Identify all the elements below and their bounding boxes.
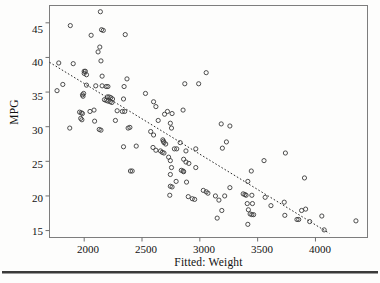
plot-area-frame bbox=[49, 5, 368, 238]
x-tick-label-2500: 2500 bbox=[126, 244, 166, 255]
x-tick-label-3500: 3500 bbox=[242, 244, 282, 255]
x-tick-label-2000: 2000 bbox=[68, 244, 108, 255]
y-tick-label-15: 15 bbox=[19, 226, 43, 237]
y-tick-label-25: 25 bbox=[19, 159, 43, 170]
y-tick-label-40: 40 bbox=[19, 57, 43, 68]
y-tick-label-35: 35 bbox=[19, 91, 43, 102]
y-tick-label-30: 30 bbox=[19, 125, 43, 136]
y-axis-title: MPG bbox=[8, 90, 20, 134]
x-tick-label-3000: 3000 bbox=[184, 244, 224, 255]
page-separator-rule-shadow bbox=[2, 273, 378, 274]
y-tick-label-20: 20 bbox=[19, 193, 43, 204]
y-tick-label-45: 45 bbox=[19, 24, 43, 35]
scatter-plot-figure: 45 40 35 30 25 20 15 2000 2500 3000 3500… bbox=[0, 0, 380, 283]
x-axis-title: Fitted: Weight bbox=[49, 256, 368, 268]
x-tick-label-4000: 4000 bbox=[300, 244, 340, 255]
